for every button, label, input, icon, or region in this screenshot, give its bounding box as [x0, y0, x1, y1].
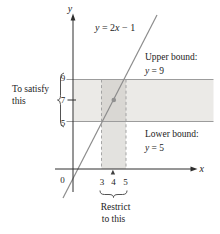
bottom-annotation-line2: to this — [102, 214, 126, 224]
x4-marker-icon — [111, 170, 115, 175]
point-dot — [112, 98, 117, 103]
y-tick-label-9: 9 — [61, 73, 66, 83]
origin-label: 0 — [60, 175, 65, 185]
y-axis-label: y — [67, 3, 73, 14]
x-axis-arrow-icon — [191, 167, 198, 172]
band-region — [74, 80, 214, 122]
bottom-annotation-line1: Restrict — [101, 202, 131, 212]
bottom-brace-icon — [100, 191, 127, 198]
strip-region-lower — [102, 122, 127, 170]
y-tick-label-5: 5 — [61, 118, 66, 128]
y-tick-label-7: 7 — [61, 95, 66, 105]
x-axis-label: x — [199, 163, 205, 174]
x-tick-label-5: 5 — [123, 177, 128, 187]
function-equation-label: y = 2x − 1 — [94, 22, 135, 33]
y-axis-arrow-icon — [71, 14, 76, 21]
limit-bounds-figure: y x y = 2x − 1 Upper bound: y = 9 Lower … — [0, 0, 220, 234]
left-annotation-line2: this — [12, 96, 26, 106]
figure-canvas: y x y = 2x − 1 Upper bound: y = 9 Lower … — [0, 0, 220, 234]
left-annotation-line1: To satisfy — [12, 84, 49, 94]
upper-bound-equation: y = 9 — [144, 66, 164, 76]
lower-bound-equation: y = 5 — [144, 143, 164, 153]
lower-bound-label: Lower bound: — [145, 129, 199, 139]
x-tick-label-4: 4 — [111, 177, 116, 187]
x-tick-label-3: 3 — [100, 177, 105, 187]
upper-bound-label: Upper bound: — [145, 52, 198, 62]
